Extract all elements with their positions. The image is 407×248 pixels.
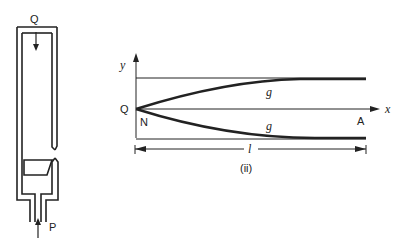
lower-curve-g <box>136 109 366 138</box>
diagram-canvas: Q P y x Q N A g g l (ii) <box>0 0 407 248</box>
label-lower-g: g <box>266 119 272 133</box>
figure-caption: (ii) <box>240 162 252 174</box>
dimension-arrow-right-icon <box>355 146 366 152</box>
label-length-l: l <box>248 142 252 156</box>
channel-diagram <box>133 53 380 154</box>
dimension-arrow-left-icon <box>135 146 146 152</box>
label-origin-N: N <box>140 116 148 128</box>
upper-curve-g <box>136 79 366 109</box>
label-origin-Q: Q <box>120 103 129 115</box>
label-upper-g: g <box>266 85 272 99</box>
label-x-axis: x <box>384 102 391 116</box>
label-A: A <box>357 115 365 127</box>
label-Q-top: Q <box>30 13 39 25</box>
tube-apparatus <box>17 27 58 222</box>
label-y-axis: y <box>119 58 126 72</box>
x-axis-arrow-icon <box>370 106 380 112</box>
y-axis-arrow-icon <box>133 53 139 62</box>
label-P-bottom: P <box>49 221 56 233</box>
